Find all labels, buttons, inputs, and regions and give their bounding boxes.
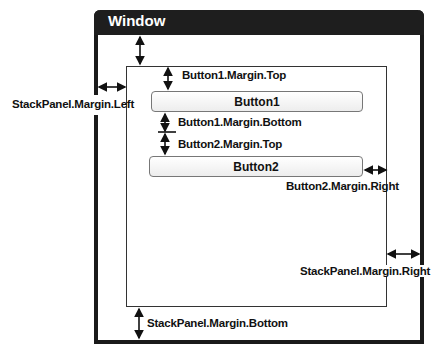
dimension-arrows [0,0,435,356]
